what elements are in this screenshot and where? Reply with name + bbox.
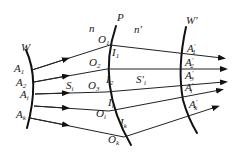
label-n-prime: n′ bbox=[134, 23, 143, 35]
label-O3: O3 bbox=[88, 79, 100, 93]
label-O2: O2 bbox=[89, 56, 101, 70]
label-A1: A1 bbox=[13, 62, 24, 76]
label-O1: O1 bbox=[98, 33, 109, 47]
label-n: n bbox=[89, 22, 95, 34]
label-Si-prime: S′i bbox=[136, 73, 146, 87]
label-Ok: Ok bbox=[108, 133, 120, 147]
label-I2: I2 bbox=[105, 73, 114, 87]
label-A1-prime: A′1 bbox=[186, 42, 196, 56]
label-Ik: Ik bbox=[119, 116, 128, 130]
label-Ak: Ak bbox=[15, 108, 27, 122]
label-Ai-prime: A′i bbox=[184, 81, 194, 95]
label-I1: I1 bbox=[111, 46, 119, 60]
label-W: W bbox=[21, 41, 31, 53]
label-Oi: Oi bbox=[96, 107, 106, 121]
label-A2-prime: A′2 bbox=[184, 56, 194, 70]
label-W-prime: W′ bbox=[186, 14, 198, 26]
refraction-diagram: W P W′ n n′ A1 A2 Ai Ak Si O1 O2 O3 Oi O… bbox=[0, 0, 237, 155]
label-Ak-prime: A′k bbox=[188, 98, 198, 112]
incident-wavefront-W bbox=[26, 50, 33, 128]
label-P: P bbox=[116, 11, 124, 23]
label-Ai: Ai bbox=[19, 88, 29, 102]
label-Si: Si bbox=[66, 79, 74, 93]
